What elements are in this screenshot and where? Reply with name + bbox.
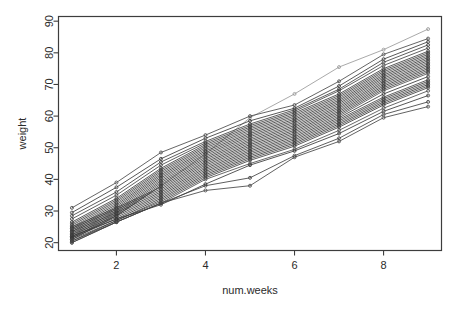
- y-axis-tick-label: 90: [44, 15, 56, 27]
- chart-figure: 20304050607080902468 weight num.weeks: [0, 0, 458, 312]
- y-axis-tick-label: 40: [44, 173, 56, 185]
- y-axis-title: weight: [16, 118, 28, 151]
- x-axis-title: num.weeks: [222, 284, 278, 296]
- y-axis-tick-label: 30: [44, 205, 56, 217]
- y-axis-tick-label: 80: [44, 47, 56, 59]
- x-axis-tick-label: 2: [113, 259, 119, 271]
- x-axis-tick-label: 8: [381, 259, 387, 271]
- y-axis-tick-label: 20: [44, 237, 56, 249]
- y-axis-tick-label: 60: [44, 110, 56, 122]
- x-axis-tick-label: 4: [202, 259, 208, 271]
- x-axis-tick-label: 6: [291, 259, 297, 271]
- spaghetti-plot: 20304050607080902468 weight num.weeks: [0, 0, 458, 312]
- y-axis-tick-label: 70: [44, 78, 56, 90]
- y-axis-tick-label: 50: [44, 142, 56, 154]
